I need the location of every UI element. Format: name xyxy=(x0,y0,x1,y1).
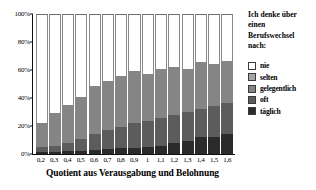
bar-column[interactable] xyxy=(221,14,233,154)
bar-segment xyxy=(221,14,233,61)
bar-segment xyxy=(128,71,140,123)
legend-item[interactable]: selten xyxy=(248,72,316,82)
legend-item[interactable]: gelegentlich xyxy=(248,83,316,93)
bar-segment xyxy=(195,109,207,137)
bar-segment xyxy=(142,74,154,122)
bar-segment xyxy=(36,123,48,147)
bar-group xyxy=(33,14,235,154)
bar-column[interactable] xyxy=(168,14,180,154)
legend-swatch-icon xyxy=(248,85,256,93)
bar-segment xyxy=(195,137,207,154)
legend-item-label: selten xyxy=(260,73,277,82)
bar-segment xyxy=(155,69,167,118)
legend-item[interactable]: nie xyxy=(248,61,316,71)
bar-segment xyxy=(182,14,194,69)
bar-segment xyxy=(75,139,87,151)
bar-segment xyxy=(168,143,180,154)
bar-segment xyxy=(62,14,74,105)
legend-title-line-1: Ich denke über xyxy=(248,10,316,20)
bar-segment xyxy=(128,148,140,154)
bar-column[interactable] xyxy=(36,14,48,154)
legend-swatch-icon xyxy=(248,107,256,115)
x-axis-tick-label: 0,2 xyxy=(35,156,47,167)
bar-segment xyxy=(168,115,180,143)
bar-segment xyxy=(75,151,87,155)
x-axis-title: Quotient aus Verausgabung und Belohnung xyxy=(20,168,245,178)
bar-column[interactable] xyxy=(49,14,61,154)
bar-segment xyxy=(128,123,140,148)
plot-inner: 0%20%40%60%80%100% xyxy=(33,14,235,154)
x-axis-tick-label: 1,6 xyxy=(221,156,233,167)
bar-segment xyxy=(128,14,140,71)
bar-column[interactable] xyxy=(208,14,220,154)
bar-column[interactable] xyxy=(102,14,114,154)
bar-segment xyxy=(142,14,154,74)
x-axis-tick-label: 1,2 xyxy=(168,156,180,167)
bar-column[interactable] xyxy=(155,14,167,154)
legend-item-label: oft xyxy=(260,95,268,104)
bar-segment xyxy=(182,69,194,112)
legend-item[interactable]: täglich xyxy=(248,106,316,116)
x-axis-tick-label: 0,6 xyxy=(88,156,100,167)
bar-segment xyxy=(36,14,48,123)
bar-segment xyxy=(102,130,114,149)
bar-segment xyxy=(155,146,167,154)
bar-segment xyxy=(155,118,167,145)
bar-segment xyxy=(155,14,167,69)
bar-segment xyxy=(221,134,233,154)
bar-column[interactable] xyxy=(182,14,194,154)
bar-segment xyxy=(102,14,114,81)
bar-segment xyxy=(115,148,127,154)
x-axis-tick-label: 1,4 xyxy=(195,156,207,167)
bar-segment xyxy=(89,150,101,154)
bar-segment xyxy=(142,121,154,147)
legend-item-label: täglich xyxy=(260,107,281,116)
bar-segment xyxy=(49,14,61,113)
legend-item[interactable]: oft xyxy=(248,95,316,105)
bar-segment xyxy=(221,61,233,103)
x-axis-tick-label: 0,5 xyxy=(75,156,87,167)
bar-segment xyxy=(168,14,180,67)
legend: Ich denke über einen Berufswechsel nach:… xyxy=(248,10,316,118)
bar-segment xyxy=(75,97,87,139)
bar-segment xyxy=(62,143,74,151)
legend-title-line-2: einen xyxy=(248,20,316,30)
bar-column[interactable] xyxy=(115,14,127,154)
bar-segment xyxy=(102,81,114,131)
bar-column[interactable] xyxy=(195,14,207,154)
legend-title: Ich denke über einen Berufswechsel nach: xyxy=(248,10,316,52)
legend-swatch-icon xyxy=(248,96,256,104)
x-axis-tick-label: 1,5 xyxy=(208,156,220,167)
x-axis-tick-label: 0,3 xyxy=(48,156,60,167)
x-axis-tick-label: 1,1 xyxy=(155,156,167,167)
bar-segment xyxy=(142,147,154,154)
bar-column[interactable] xyxy=(62,14,74,154)
legend-item-list: nieseltengelegentlichofttäglich xyxy=(248,61,316,117)
bar-segment xyxy=(195,14,207,62)
legend-title-line-3: Berufswechsel xyxy=(248,31,316,41)
bar-segment xyxy=(75,14,87,97)
x-axis-tick-label: 0,7 xyxy=(101,156,113,167)
bar-column[interactable] xyxy=(128,14,140,154)
bar-segment xyxy=(49,152,61,154)
bar-segment xyxy=(208,106,220,137)
stacked-bar-chart: 0%20%40%60%80%100% 0,20,30,40,50,60,70,8… xyxy=(0,0,316,190)
bar-segment xyxy=(89,134,101,149)
plot-area: 0%20%40%60%80%100% xyxy=(32,14,235,155)
bar-segment xyxy=(102,149,114,154)
bar-segment xyxy=(182,112,194,141)
bar-column[interactable] xyxy=(75,14,87,154)
bar-column[interactable] xyxy=(142,14,154,154)
legend-swatch-icon xyxy=(248,73,256,81)
bar-segment xyxy=(115,14,127,76)
bar-segment xyxy=(208,64,220,106)
bar-segment xyxy=(49,113,61,146)
bar-segment xyxy=(221,103,233,135)
x-axis-tick-label: 0,8 xyxy=(115,156,127,167)
bar-column[interactable] xyxy=(89,14,101,154)
legend-title-line-4: nach: xyxy=(248,41,316,51)
bar-segment xyxy=(115,76,127,128)
legend-item-label: gelegentlich xyxy=(260,84,296,93)
bar-segment xyxy=(89,86,101,134)
bar-segment xyxy=(62,151,74,154)
